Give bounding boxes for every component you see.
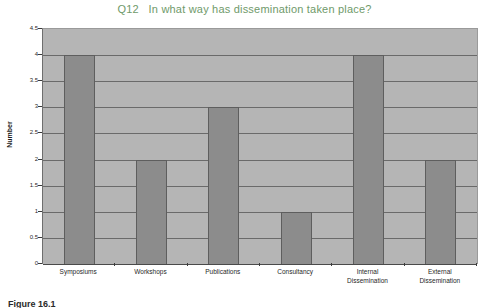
bar bbox=[64, 55, 95, 264]
x-tick-mark bbox=[114, 263, 115, 266]
y-tick-label: 0.5 bbox=[14, 234, 38, 240]
bar bbox=[136, 160, 167, 264]
x-tick-mark bbox=[187, 263, 188, 266]
x-tick-label: External Dissemination bbox=[404, 268, 476, 285]
gridline bbox=[43, 238, 477, 239]
x-tick-mark bbox=[476, 263, 477, 266]
x-tick-mark bbox=[331, 263, 332, 266]
y-tick-label: 2.5 bbox=[14, 129, 38, 135]
chart-figure: Q12 In what way has dissemination taken … bbox=[0, 0, 489, 308]
y-axis-title: Number bbox=[6, 110, 13, 160]
gridline bbox=[43, 107, 477, 108]
y-tick-label: 4.5 bbox=[14, 25, 38, 31]
y-tick-label: 3 bbox=[14, 103, 38, 109]
gridline bbox=[43, 81, 477, 82]
x-tick-label: Workshops bbox=[114, 268, 186, 277]
gridline bbox=[43, 133, 477, 134]
gridline bbox=[43, 160, 477, 161]
x-tick-mark bbox=[259, 263, 260, 266]
x-tick-label: Consultancy bbox=[259, 268, 331, 277]
plot-area bbox=[42, 28, 478, 264]
bar bbox=[281, 212, 312, 264]
x-tick-label: Publications bbox=[187, 268, 259, 277]
gridline bbox=[43, 186, 477, 187]
gridline bbox=[43, 264, 477, 265]
bar bbox=[353, 55, 384, 264]
x-tick-label: Symposiums bbox=[42, 268, 114, 277]
gridline bbox=[43, 55, 477, 56]
y-tick-label: 1 bbox=[14, 208, 38, 214]
y-tick-label: 4 bbox=[14, 51, 38, 57]
bar bbox=[208, 107, 239, 264]
y-tick-label: 1.5 bbox=[14, 182, 38, 188]
x-tick-mark bbox=[404, 263, 405, 266]
gridline bbox=[43, 212, 477, 213]
y-tick-label: 0 bbox=[14, 260, 38, 266]
bar bbox=[425, 160, 456, 264]
x-tick-label: Internal Dissemination bbox=[331, 268, 403, 285]
y-tick-label: 2 bbox=[14, 156, 38, 162]
y-tick-label: 3.5 bbox=[14, 77, 38, 83]
figure-caption: Figure 16.1 bbox=[8, 299, 56, 308]
chart-title: Q12 In what way has dissemination taken … bbox=[0, 3, 489, 15]
